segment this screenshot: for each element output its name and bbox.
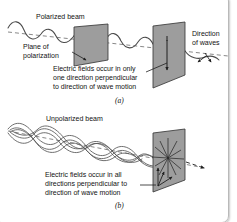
panel-a-caption-line1: Electric fields occur in only: [53, 65, 135, 74]
panel-a-beam-label: Polarized beam: [36, 13, 85, 22]
panel-a-id-label: (a): [115, 96, 124, 105]
polarizer-plane-a: [74, 24, 108, 66]
panel-b-caption-line2: directions perpendicular to: [45, 180, 127, 189]
panel-b-caption-line3: direction of wave motion: [45, 189, 120, 198]
direction-arrow-a-1: [198, 56, 206, 62]
panel-b-caption-line1: Electric fields occur in all: [45, 171, 122, 180]
panel-a-direction-label-line2: of waves: [192, 39, 220, 48]
polarization-figure: Polarized beam Plane of polarization Dir…: [0, 0, 237, 222]
panel-b-id-label: (b): [115, 201, 124, 210]
panel-a-caption-line3: to direction of wave motion: [53, 83, 136, 92]
panel-b-beam-label: Unpolarized beam: [46, 115, 103, 124]
panel-a-plane-label-line2: polarization: [23, 52, 59, 61]
panel-a-caption-line2: one direction perpendicular: [53, 74, 137, 83]
panel-a-direction-label-line1: Direction: [192, 30, 220, 39]
screen-plane-a: [153, 22, 185, 88]
panel-a-plane-label-line1: Plane of: [23, 43, 49, 52]
